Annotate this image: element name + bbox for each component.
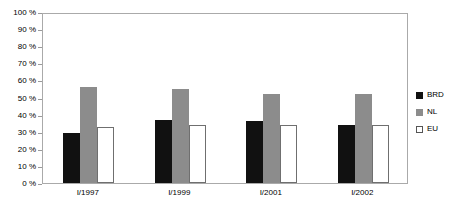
bar-nl-I-2001 — [263, 94, 280, 183]
x-axis: I/1997I/1999I/2001I/2002 — [42, 188, 408, 208]
y-axis-tick-label: 40 % — [0, 112, 36, 120]
y-axis-tick-mark — [38, 184, 42, 185]
y-axis-tick-mark — [38, 133, 42, 134]
bar-group — [155, 14, 206, 183]
bars-layer — [43, 14, 407, 183]
y-axis-tick-label: 70 % — [0, 60, 36, 68]
y-axis-tick-mark — [38, 47, 42, 48]
x-axis-tick-label: I/2002 — [351, 188, 373, 197]
y-axis-tick-mark — [38, 13, 42, 14]
legend-label: BRD — [427, 91, 444, 99]
bar-group — [246, 14, 297, 183]
y-axis-tick-label: 80 % — [0, 43, 36, 51]
y-axis-tick-label: 10 % — [0, 163, 36, 171]
y-axis-tick-mark — [38, 64, 42, 65]
y-axis-tick-mark — [38, 150, 42, 151]
plot-area — [42, 13, 408, 184]
x-axis-tick-label: I/1999 — [168, 188, 190, 197]
bar-brd-I-1999 — [155, 120, 172, 183]
chart-legend: BRDNLEU — [416, 88, 462, 139]
legend-item-nl: NL — [416, 105, 462, 119]
x-axis-tick-label: I/1997 — [77, 188, 99, 197]
bar-nl-I-2002 — [355, 94, 372, 183]
bar-eu-I-2001 — [280, 125, 297, 183]
legend-item-brd: BRD — [416, 88, 462, 102]
y-axis-tick-label: 30 % — [0, 129, 36, 137]
y-axis-tick-label: 20 % — [0, 146, 36, 154]
bar-chart: 100 %90 %80 %70 %60 %50 %40 %30 %20 %10 … — [0, 0, 465, 212]
y-axis-tick-mark — [38, 30, 42, 31]
x-axis-tick-label: I/2001 — [260, 188, 282, 197]
y-axis: 100 %90 %80 %70 %60 %50 %40 %30 %20 %10 … — [0, 0, 36, 212]
bar-brd-I-2002 — [338, 125, 355, 183]
bar-eu-I-2002 — [372, 125, 389, 183]
bar-nl-I-1997 — [80, 87, 97, 183]
bar-group — [63, 14, 114, 183]
bar-group — [338, 14, 389, 183]
y-axis-tick-mark — [38, 116, 42, 117]
y-axis-tick-mark — [38, 81, 42, 82]
y-axis-tick-label: 0 % — [0, 180, 36, 188]
bar-eu-I-1999 — [189, 125, 206, 183]
legend-swatch-nl — [416, 109, 423, 116]
legend-label: NL — [427, 108, 437, 116]
y-axis-tick-label: 90 % — [0, 26, 36, 34]
legend-swatch-eu — [416, 126, 423, 133]
y-axis-tick-mark — [38, 167, 42, 168]
bar-eu-I-1997 — [97, 127, 114, 183]
legend-swatch-brd — [416, 92, 423, 99]
bar-brd-I-1997 — [63, 133, 80, 183]
y-axis-tick-label: 50 % — [0, 95, 36, 103]
y-axis-tick-label: 100 % — [0, 9, 36, 17]
y-axis-tick-mark — [38, 99, 42, 100]
legend-label: EU — [427, 125, 438, 133]
legend-item-eu: EU — [416, 122, 462, 136]
bar-brd-I-2001 — [246, 121, 263, 183]
bar-nl-I-1999 — [172, 89, 189, 183]
y-axis-tick-label: 60 % — [0, 77, 36, 85]
